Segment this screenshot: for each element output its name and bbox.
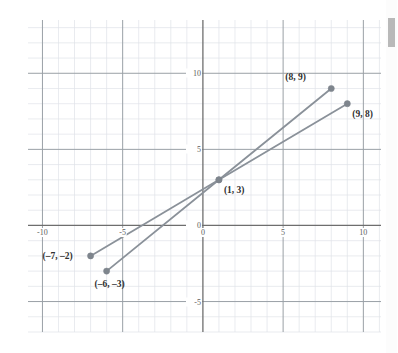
plot-area: -10-505101050-5 (8, 9)(9, 8)(1, 3)(–7, –… (28, 20, 381, 332)
label-8-9: (8, 9) (285, 72, 306, 82)
label-9-8: (9, 8) (352, 109, 373, 119)
x-tick-label: 5 (280, 228, 286, 237)
label-1-3: (1, 3) (224, 185, 245, 195)
x-tick-label: -5 (118, 228, 127, 237)
label-n7-n2: (–7, –2) (43, 251, 73, 261)
x-tick-label: -10 (36, 228, 49, 237)
scrollbar-track[interactable] (386, 0, 397, 353)
chart-canvas: -10-505101050-5 (8, 9)(9, 8)(1, 3)(–7, –… (0, 0, 398, 353)
y-tick-label: 5 (186, 145, 202, 154)
y-tick-label: 0 (186, 221, 202, 230)
scrollbar-thumb[interactable] (388, 18, 395, 47)
data-series-layer (28, 20, 381, 332)
x-tick-label: 10 (358, 228, 368, 237)
label-n6-n3: (–6, –3) (95, 279, 125, 289)
y-tick-label: 10 (186, 69, 202, 78)
y-tick-label: -5 (186, 297, 202, 306)
